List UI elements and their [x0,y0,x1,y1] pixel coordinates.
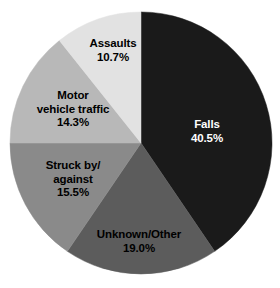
pie-chart: Falls 40.5% Unknown/Other 19.0% Struck b… [0,0,280,288]
pie-slice-group [10,12,272,274]
pie-chart-canvas [0,0,280,288]
